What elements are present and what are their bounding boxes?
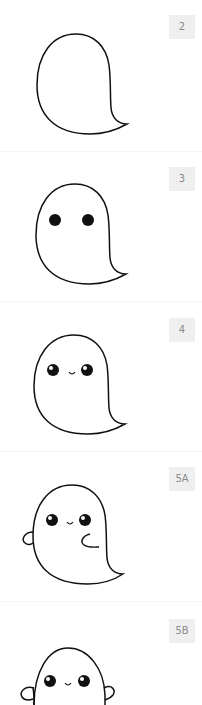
smile-icon [69,372,75,374]
right-eye-icon [81,364,93,376]
ghost-one-arm-up-icon [0,450,202,600]
smile-icon [65,683,71,685]
left-eye-icon [49,214,61,226]
right-eye-icon [78,675,90,687]
step-3-panel: 3 [0,150,202,300]
right-eye-icon [79,514,91,526]
smile-icon [67,522,73,524]
ghost-with-eyes-icon [0,150,202,300]
step-5a-panel: 5A [0,450,202,600]
left-eye-icon [47,364,59,376]
left-arm-icon [23,532,33,545]
left-eye-icon [44,675,56,687]
right-eye-icon [82,214,94,226]
ghost-outline-icon [0,0,202,150]
left-arm-icon [21,687,34,700]
step-4-panel: 4 [0,300,202,450]
left-eye-icon [46,514,58,526]
ghost-with-face-icon [0,300,202,450]
step-2-panel: 2 [0,0,202,150]
step-5b-panel: 5B [0,600,202,705]
right-arm-icon [82,534,99,547]
ghost-both-arms-up-icon [0,600,202,705]
